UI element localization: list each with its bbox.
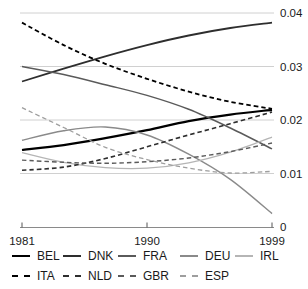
series-line-dnk: [22, 23, 272, 82]
line-chart-figure: 19811990199900.010.020.030.04 BELDNKFRAD…: [0, 0, 308, 289]
series-line-esp: [22, 108, 272, 173]
line-sample-icon-nld: [63, 275, 81, 277]
line-sample-icon-gbr: [118, 275, 136, 277]
line-sample-icon-esp: [180, 275, 198, 277]
line-sample-icon-dnk: [63, 255, 81, 257]
line-sample-icon-deu: [180, 255, 198, 257]
y-tick-label-0.01: 0.01: [280, 168, 302, 180]
legend-item-fra: FRA: [118, 250, 180, 262]
y-tick-label-0.04: 0.04: [280, 7, 303, 19]
legend-item-irl: IRL: [235, 250, 308, 262]
line-sample-icon-fra: [118, 255, 136, 257]
line-sample-icon-ita: [12, 275, 30, 277]
legend-label-dnk: DNK: [88, 250, 113, 262]
x-tick-label-1999: 1999: [259, 235, 285, 246]
legend-item-gbr: GBR: [118, 270, 180, 282]
legend-label-deu: DEU: [205, 250, 230, 262]
legend-label-irl: IRL: [260, 250, 279, 262]
legend-item-esp: ESP: [180, 270, 235, 282]
y-tick-label-0.02: 0.02: [280, 114, 302, 126]
legend-label-gbr: GBR: [143, 270, 169, 282]
series-line-irl: [22, 137, 272, 169]
line-sample-icon-irl: [235, 255, 253, 257]
legend-item-bel: BEL: [12, 250, 63, 262]
legend-item-deu: DEU: [180, 250, 235, 262]
legend-label-bel: BEL: [37, 250, 60, 262]
legend-item-dnk: DNK: [63, 250, 118, 262]
y-tick-label-0: 0: [280, 221, 286, 233]
legend-label-nld: NLD: [88, 270, 112, 282]
x-tick-label-1981: 1981: [9, 235, 35, 246]
y-tick-label-0.03: 0.03: [280, 61, 302, 73]
series-line-deu: [22, 127, 272, 214]
chart-legend: BELDNKFRADEUIRLITANLDGBRESP: [12, 246, 308, 286]
legend-label-esp: ESP: [205, 270, 229, 282]
legend-label-fra: FRA: [143, 250, 167, 262]
legend-item-ita: ITA: [12, 270, 63, 282]
line-sample-icon-bel: [12, 255, 30, 257]
chart-svg: 19811990199900.010.020.030.04: [0, 0, 308, 246]
x-tick-label-1990: 1990: [134, 235, 160, 246]
legend-label-ita: ITA: [37, 270, 55, 282]
legend-item-nld: NLD: [63, 270, 118, 282]
